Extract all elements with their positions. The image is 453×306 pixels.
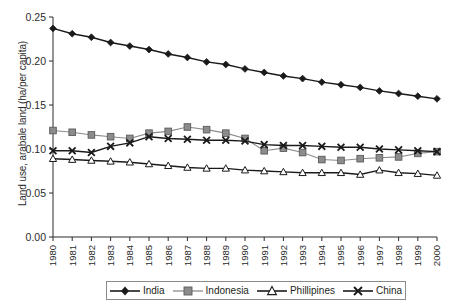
data-point-marker <box>69 129 76 136</box>
y-tick-label: 0.20 <box>26 55 47 67</box>
data-point-marker <box>184 54 191 61</box>
legend-marker-indonesia <box>173 284 203 298</box>
data-point-marker <box>146 46 153 53</box>
data-point-marker <box>50 127 57 134</box>
data-point-marker <box>338 157 345 164</box>
data-point-marker <box>242 66 249 73</box>
x-tick-label: 1981 <box>67 245 78 266</box>
y-axis: 0.000.050.100.150.200.25 <box>26 11 53 243</box>
legend-marker-china <box>343 284 373 298</box>
x-tick-label: 1993 <box>297 245 308 266</box>
data-point-marker <box>357 84 364 91</box>
data-point-marker <box>165 128 172 135</box>
x-tick-label: 1990 <box>239 245 250 266</box>
x-tick-label: 1988 <box>201 245 212 266</box>
x-axis: 1980198119821983198419851986198719881989… <box>47 237 442 266</box>
data-point-marker <box>261 69 268 76</box>
data-point-marker <box>395 154 402 161</box>
legend-marker-india <box>110 284 140 298</box>
legend-label-india: India <box>142 285 165 296</box>
y-tick-label: 0.15 <box>26 99 47 111</box>
data-series-group <box>49 25 440 178</box>
data-point-marker <box>414 93 421 100</box>
legend-item-china[interactable]: China <box>343 284 402 298</box>
data-point-marker <box>88 34 95 41</box>
x-tick-label: 1986 <box>163 245 174 266</box>
x-tick-label: 1987 <box>182 245 193 266</box>
y-tick-label: 0.10 <box>26 143 47 155</box>
x-tick-label: 1997 <box>374 245 385 266</box>
y-tick-label: 0.05 <box>26 187 47 199</box>
data-point-marker <box>338 81 345 88</box>
chart-legend: India Indonesia Phillipines China <box>106 281 406 300</box>
legend-label-china: China <box>375 285 402 296</box>
data-point-marker <box>357 155 364 162</box>
x-tick-label: 1984 <box>124 245 135 266</box>
data-point-marker <box>280 73 287 80</box>
x-tick-label: 1980 <box>47 245 58 266</box>
x-tick-label: 1994 <box>316 245 327 266</box>
data-point-marker <box>50 25 57 32</box>
data-point-marker <box>395 90 402 97</box>
x-tick-label: 1985 <box>143 245 154 266</box>
data-point-marker <box>107 133 114 140</box>
data-point-marker <box>299 75 306 82</box>
x-tick-label: 1989 <box>220 245 231 266</box>
data-point-marker <box>319 156 326 163</box>
data-point-marker <box>222 61 229 68</box>
x-tick-label: 1999 <box>412 245 423 266</box>
data-point-marker <box>318 79 325 86</box>
data-point-marker <box>165 51 172 58</box>
x-tick-label: 1998 <box>393 245 404 266</box>
x-tick-label: 1992 <box>278 245 289 266</box>
legend-label-indonesia: Indonesia <box>205 285 249 296</box>
legend-marker-phillipines <box>257 284 287 298</box>
data-point-marker <box>261 147 268 154</box>
x-tick-label: 1991 <box>259 245 270 266</box>
data-point-marker <box>434 95 441 102</box>
legend-item-indonesia[interactable]: Indonesia <box>173 284 249 298</box>
data-point-marker <box>299 149 306 156</box>
data-point-marker <box>376 167 383 173</box>
legend-item-phillipines[interactable]: Phillipines <box>257 284 335 298</box>
x-tick-label: 1983 <box>105 245 116 266</box>
y-tick-label: 0.25 <box>26 11 47 23</box>
x-tick-label: 2000 <box>431 245 442 266</box>
x-tick-label: 1982 <box>86 245 97 266</box>
data-point-marker <box>203 58 210 65</box>
x-tick-label: 1996 <box>355 245 366 266</box>
legend-label-phillipines: Phillipines <box>289 285 335 296</box>
data-point-marker <box>69 30 76 37</box>
series-india <box>50 25 441 102</box>
data-point-marker <box>107 39 114 46</box>
data-point-marker <box>203 126 210 133</box>
data-point-marker <box>223 130 230 137</box>
y-tick-label: 0.00 <box>26 231 47 243</box>
chart-container: Land use, arabale land (ha/per capita) 0… <box>0 0 453 306</box>
data-point-marker <box>376 88 383 95</box>
legend-item-india[interactable]: India <box>110 284 165 298</box>
data-point-marker <box>126 43 133 50</box>
line-chart-plot: 0.000.050.100.150.200.25 198019811982198… <box>0 0 453 306</box>
data-point-marker <box>376 155 383 162</box>
data-point-marker <box>88 132 95 139</box>
data-point-marker <box>184 124 191 131</box>
x-tick-label: 1995 <box>335 245 346 266</box>
